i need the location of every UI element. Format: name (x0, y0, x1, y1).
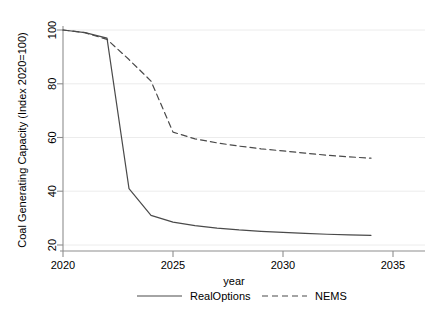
y-axis-title: Coal Generating Capacity (Index 2020=100… (16, 32, 28, 248)
x-tick-label-2030: 2030 (271, 259, 295, 271)
x-tick-label-2020: 2020 (51, 259, 75, 271)
coal-capacity-line-chart: 100 80 60 40 20 Coal Generating Capacity… (0, 0, 442, 316)
y-tick-label-40: 40 (46, 185, 58, 197)
y-tick-label-60: 60 (46, 131, 58, 143)
legend-label-realoptions: RealOptions (190, 290, 251, 302)
x-tick-label-2035: 2035 (381, 259, 405, 271)
chart-container: 100 80 60 40 20 Coal Generating Capacity… (0, 0, 442, 316)
x-tick-label-2025: 2025 (161, 259, 185, 271)
y-tick-label-20: 20 (46, 239, 58, 251)
legend-label-nems: NEMS (315, 290, 347, 302)
y-tick-label-100: 100 (46, 21, 58, 39)
x-axis-title: year (223, 275, 245, 287)
y-tick-label-80: 80 (46, 78, 58, 90)
